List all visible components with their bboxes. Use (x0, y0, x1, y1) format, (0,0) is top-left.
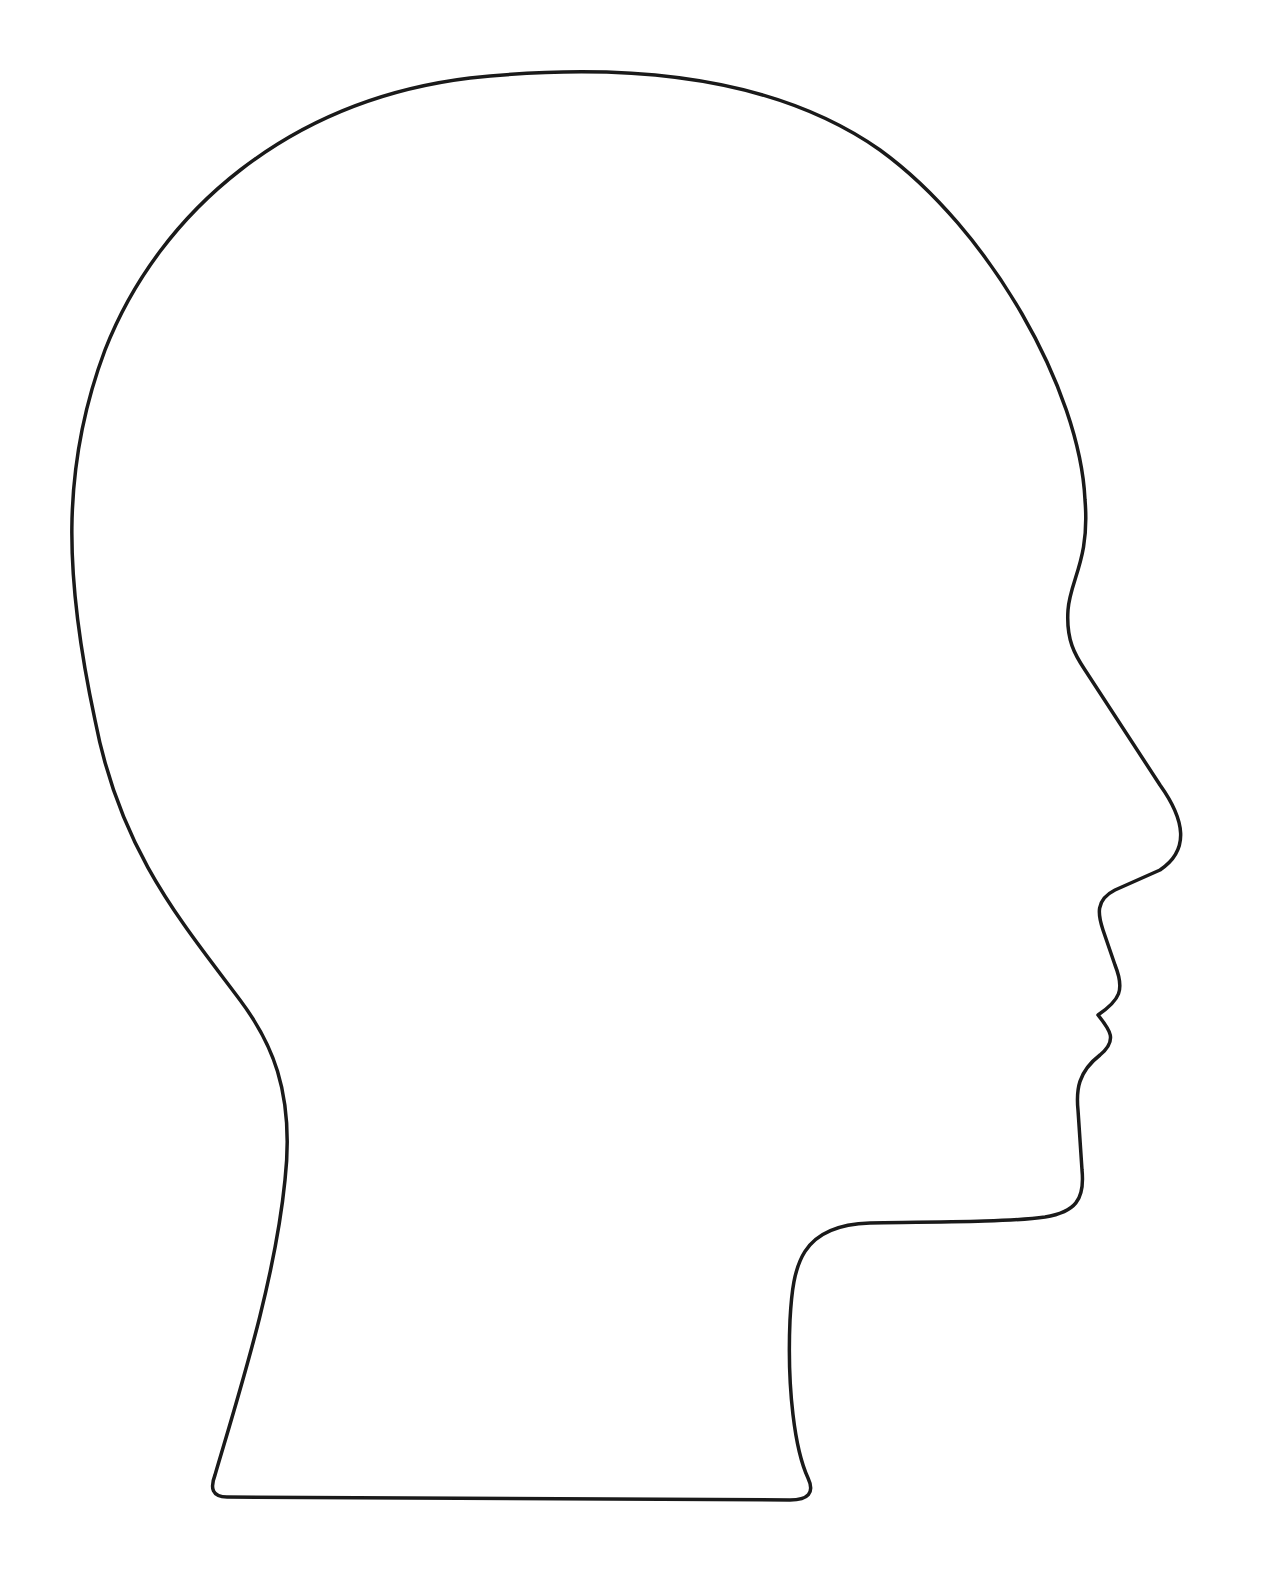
head-contour (72, 72, 1181, 1500)
head-profile-outline (0, 0, 1271, 1596)
